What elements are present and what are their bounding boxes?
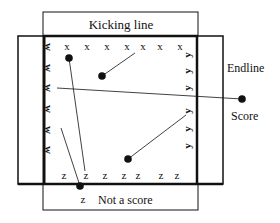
player-y: y [181,52,193,58]
trajectory-line [69,58,85,171]
player-y: y [181,126,193,132]
player-w: w [43,126,55,134]
player-z-outside: z [81,193,86,205]
player-z: z [84,169,89,181]
player-z: z [159,169,164,181]
ball-dot [124,155,132,163]
player-w: w [43,105,55,113]
player-x: x [124,40,130,52]
z-row: z z z z z z z [62,169,180,181]
player-x: x [104,40,110,52]
balls [65,54,246,190]
player-w: w [43,64,55,72]
player-w: w [43,43,55,51]
ball-dot-score [238,95,246,103]
x-row: x x x x x x x [64,40,183,52]
player-z: z [122,169,127,181]
ball-dot-not-score [76,182,84,190]
player-x: x [64,40,70,52]
score-label: Score [231,109,258,123]
not-a-score-label: Not a score [98,193,153,207]
trajectory-line [128,115,186,159]
player-x: x [140,40,146,52]
player-z: z [62,169,67,181]
player-y: y [181,143,193,149]
kicking-line-label: Kicking line [89,17,154,32]
player-x: x [84,40,90,52]
trajectory-line [57,88,242,99]
trajectory-line [102,53,135,76]
ball-dot [98,72,106,80]
field-diagram: Kicking line Endline Score Not a score x… [0,0,280,223]
player-y: y [181,108,193,114]
endline-label: Endline [227,61,264,75]
player-x: x [177,40,183,52]
ball-dot [65,54,73,62]
player-w: w [43,84,55,92]
trajectories [57,53,242,186]
player-z: z [103,169,108,181]
player-y: y [181,68,193,74]
player-w: w [43,146,55,154]
player-x: x [157,40,163,52]
player-z: z [136,169,141,181]
player-z: z [175,169,180,181]
player-y: y [181,85,193,91]
y-column: y y y y y y [181,52,193,149]
